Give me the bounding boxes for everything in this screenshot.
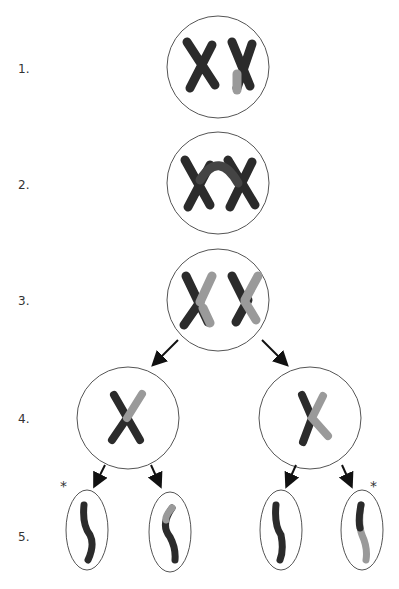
cell-stage-1 [167,16,269,118]
arrow [287,465,296,485]
meiosis-diagram [0,0,399,589]
chromosome [187,42,252,88]
cell-stage-3 [167,249,269,351]
cell-stage-2 [167,132,269,234]
arrow [262,340,286,364]
arrow [151,465,160,485]
arrow [342,465,351,485]
arrow [154,340,178,364]
arrow [95,465,105,485]
